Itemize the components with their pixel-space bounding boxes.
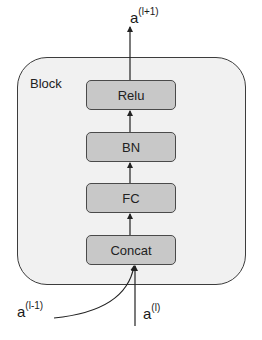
output-label-superscript: (l+1) [138,6,158,17]
layer-relu: Relu [86,80,176,110]
layer-relu-label: Relu [118,88,145,103]
layer-bn: BN [86,132,176,162]
layer-concat: Concat [86,235,176,265]
input-label-l-minus-1: a(l-1) [17,302,43,320]
dense-block-diagram: Block Relu BN FC Concat a(l+1) a(l-1) [0,0,262,340]
layer-bn-label: BN [122,140,140,155]
input-label-l-minus-1-superscript: (l-1) [25,300,43,311]
layer-fc-label: FC [122,191,139,206]
layer-fc: FC [86,183,176,213]
layer-concat-label: Concat [110,243,151,258]
block-label: Block [30,76,62,91]
output-label: a(l+1) [130,8,159,26]
input-label-l: a(l) [143,304,160,322]
input-label-l-superscript: (l) [151,302,160,313]
